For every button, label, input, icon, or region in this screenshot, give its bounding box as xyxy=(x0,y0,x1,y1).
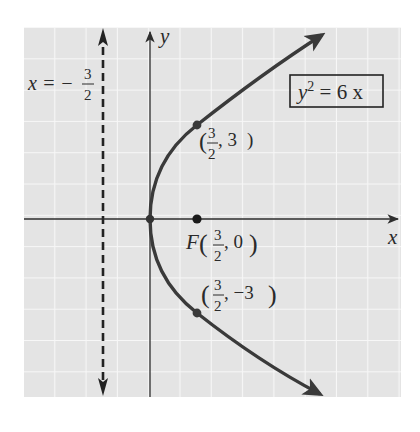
equation-exponent: 2 xyxy=(307,79,314,94)
lower-lparen: ( xyxy=(201,280,210,309)
directrix-frac-den: 2 xyxy=(84,87,92,103)
lower-frac-num: 3 xyxy=(214,277,222,293)
directrix-frac-num: 3 xyxy=(84,66,92,82)
upper-rparen: ) xyxy=(247,129,253,151)
upper-frac-num: 3 xyxy=(208,125,216,141)
lower-frac-den: 2 xyxy=(214,298,222,314)
focus-rparen: ) xyxy=(249,229,258,258)
focus-lparen: ( xyxy=(199,229,208,258)
equation-label: y2 = 6 x xyxy=(296,79,363,104)
focus-frac-den: 2 xyxy=(214,248,222,264)
equation-rhs: = 6 x xyxy=(314,80,363,104)
focus-frac-num: 3 xyxy=(214,227,222,243)
x-axis-label: x xyxy=(387,225,398,249)
parabola-figure: y x x = − 3 2 y2 = 6 x ( 3 2 , 3 ) F ( 3… xyxy=(0,0,420,432)
lower-rparen: ) xyxy=(268,280,277,309)
lower-rest: , −3 xyxy=(224,282,254,303)
focus-rest: , 0 xyxy=(224,231,243,252)
upper-rest: , 3 xyxy=(218,129,237,150)
directrix-label-lhs: x = − xyxy=(27,72,74,94)
vertex-point xyxy=(146,215,154,223)
equation-y: y xyxy=(296,80,308,104)
focus-letter: F xyxy=(185,230,199,254)
upper-lparen: ( xyxy=(199,128,207,154)
chart-svg: y x x = − 3 2 y2 = 6 x ( 3 2 , 3 ) F ( 3… xyxy=(0,0,420,432)
y-axis-label: y xyxy=(158,24,170,48)
lower-point xyxy=(193,309,202,318)
upper-frac-den: 2 xyxy=(208,146,216,162)
focus-point xyxy=(192,214,201,223)
